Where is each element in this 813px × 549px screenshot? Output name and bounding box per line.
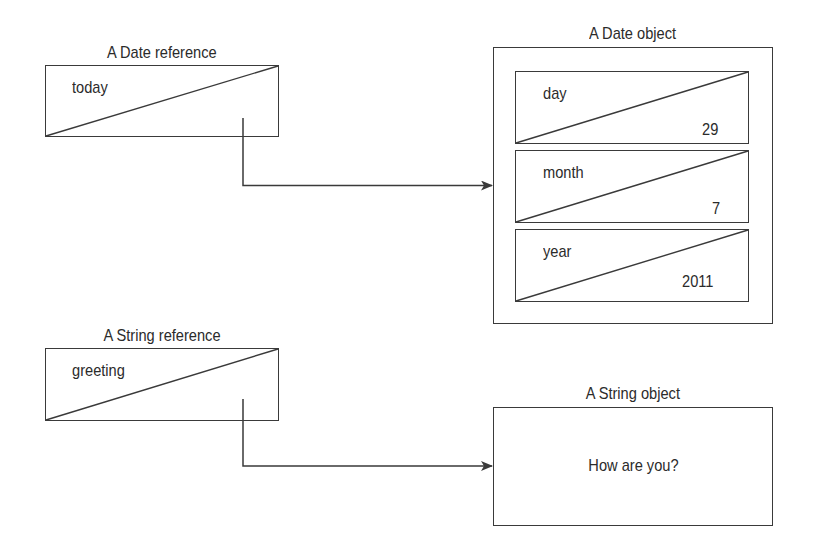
string-reference-variable: greeting — [72, 362, 125, 379]
string-reference-box — [45, 348, 279, 421]
year-field-name: year — [543, 243, 571, 260]
string-reference-caption: A String reference — [46, 327, 278, 344]
year-field-value: 2011 — [682, 273, 713, 290]
today-reference-arrow — [243, 118, 492, 186]
day-field-name: day — [543, 85, 567, 102]
date-object-caption: A Date object — [494, 25, 772, 42]
greeting-reference-arrow — [243, 399, 492, 466]
month-field-value: 7 — [712, 200, 720, 217]
month-field-name: month — [543, 164, 584, 181]
string-object-value: How are you? — [494, 457, 772, 474]
date-field-year — [515, 229, 749, 302]
string-object-caption: A String object — [494, 385, 772, 402]
date-reference-variable: today — [72, 79, 108, 96]
date-reference-box — [45, 65, 279, 137]
day-field-value: 29 — [702, 121, 718, 138]
date-reference-caption: A Date reference — [46, 44, 278, 61]
